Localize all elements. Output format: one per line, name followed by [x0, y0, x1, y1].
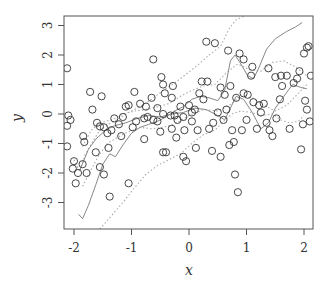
y-tick-label: -3: [41, 197, 55, 209]
y-tick-label: 2: [41, 51, 55, 59]
y-axis-title: y: [9, 113, 25, 123]
y-tick-label: 3: [41, 22, 55, 30]
x-tick-label: -1: [126, 241, 138, 255]
y-tick-label: 0: [41, 110, 55, 118]
x-tick-label: -2: [68, 241, 80, 255]
y-tick-label: 1: [41, 81, 55, 89]
y-tick-label: -1: [41, 138, 55, 150]
scatter-plot: -2-1012 -3-2-10123 x y: [0, 0, 323, 287]
y-tick-label: -2: [41, 167, 55, 179]
x-tick-label: 0: [185, 241, 193, 255]
x-tick-label: 1: [243, 241, 251, 255]
x-tick-label: 2: [300, 241, 308, 255]
x-axis-title: x: [185, 262, 193, 278]
